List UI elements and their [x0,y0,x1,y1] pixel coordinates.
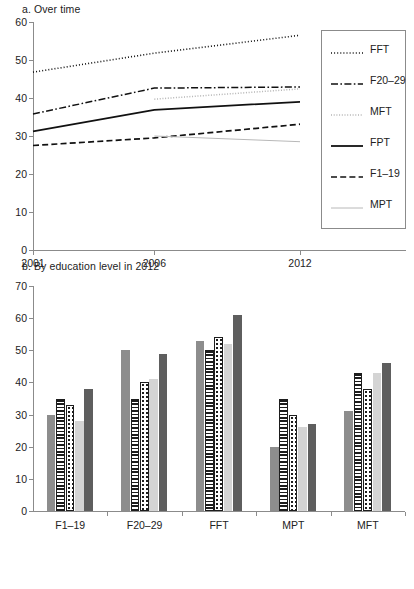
x-axis-tick [182,512,183,516]
y-axis-tick-label: 60 [5,312,27,324]
x-axis-category-label: F20–29 [127,519,163,531]
bar [66,405,75,511]
y-axis-tick-label: 40 [5,376,27,388]
y-axis-tick [29,511,33,512]
bar [308,424,317,511]
x-axis-tick [256,512,257,516]
legend-item-label: F1–19 [370,167,400,179]
line-series-f1-19 [33,124,300,145]
legend-item-label: MPT [370,198,392,210]
bar [373,373,382,511]
bar [47,415,56,511]
line-chart-legend: FFTF20–29MFTFPTF1–19MPT [321,30,406,229]
bar [131,399,140,512]
bar [149,379,158,511]
line-series-fft [33,35,300,72]
bar [84,389,93,511]
legend-item-mft: MFT [330,105,392,117]
line-series-fpt [33,102,300,132]
bar [298,427,307,511]
bar [56,399,65,512]
line-series-mpt [154,136,300,142]
bar [289,415,298,511]
bar [121,350,130,511]
legend-item-mpt: MPT [330,198,392,210]
y-axis-tick [29,382,33,383]
y-axis-tick-label: 30 [5,409,27,421]
bar [196,341,205,511]
bar [214,337,223,511]
legend-item-f1-19: F1–19 [330,167,400,179]
legend-item-label: F20–29 [370,74,406,86]
bar [159,354,168,512]
legend-item-fpt: FPT [330,136,390,148]
y-axis-tick-label: 0 [5,505,27,517]
line-series-mft [154,89,300,99]
bar [382,363,391,511]
legend-item-f20-29: F20–29 [330,74,406,86]
y-axis-tick [29,350,33,351]
x-axis-category-label: FFT [209,519,228,531]
y-axis-tick [29,479,33,480]
y-axis-tick-label: 20 [5,441,27,453]
legend-item-label: FFT [370,43,389,55]
bar [140,382,149,511]
y-axis-line [33,286,34,511]
bar [363,389,372,511]
bar [270,447,279,511]
legend-item-label: FPT [370,136,390,148]
bar [279,399,288,512]
y-axis-tick-label: 50 [5,344,27,356]
legend-line-swatch [330,44,364,54]
y-axis-tick [29,286,33,287]
x-axis-category-label: F1–19 [55,519,85,531]
x-axis-tick [107,512,108,516]
x-axis-tick [405,512,406,516]
bar-chart-panel: b. By education level in 2012 7060504030… [0,258,414,589]
y-axis-tick [29,318,33,319]
legend-line-swatch [330,199,364,209]
line-chart-panel: a. Over time 6050403020100200120062012 F… [0,0,414,258]
bar [354,373,363,511]
x-axis-category-label: MPT [282,519,304,531]
bar [233,315,242,511]
legend-item-fft: FFT [330,43,389,55]
legend-line-swatch [330,75,364,85]
x-axis-category-label: MFT [357,519,379,531]
legend-line-swatch [330,106,364,116]
x-axis-line [33,511,405,512]
y-axis-tick [29,415,33,416]
legend-line-swatch [330,137,364,147]
legend-item-label: MFT [370,105,392,117]
panel-b-title: b. By education level in 2012 [22,260,159,272]
bar [344,411,353,511]
y-axis-tick-label: 10 [5,473,27,485]
bar [205,350,214,511]
y-axis-tick-label: 70 [5,280,27,292]
x-axis-tick [331,512,332,516]
bar [75,421,84,511]
bar [224,344,233,511]
legend-line-swatch [330,168,364,178]
y-axis-tick [29,447,33,448]
